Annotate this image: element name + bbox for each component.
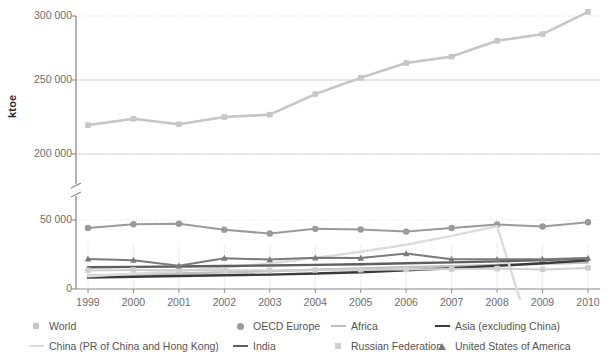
legend-line-icon bbox=[28, 345, 44, 348]
data-point-marker bbox=[358, 267, 364, 273]
data-point-marker bbox=[403, 228, 409, 234]
legend-marker-glyph bbox=[438, 343, 446, 350]
data-point-marker bbox=[267, 268, 273, 274]
data-point-marker bbox=[540, 31, 546, 37]
data-point-marker bbox=[449, 266, 455, 272]
x-axis-tick-label: 2005 bbox=[349, 296, 372, 308]
data-point-marker bbox=[131, 267, 137, 273]
legend-item[interactable]: United States of America bbox=[434, 340, 571, 352]
legend-item-label: Russian Federation bbox=[351, 340, 442, 352]
x-axis-tick-label: 2001 bbox=[167, 296, 190, 308]
series-line-oecd-europe bbox=[88, 222, 588, 233]
legend-line-icon bbox=[434, 325, 450, 328]
data-point-marker bbox=[85, 225, 91, 231]
legend-marker-glyph bbox=[331, 325, 346, 328]
legend-circle-icon bbox=[232, 323, 248, 330]
x-axis-tick-label: 2003 bbox=[258, 296, 281, 308]
chart-container: ktoe 300 000250 000200 00050 0000 199920… bbox=[0, 0, 615, 361]
data-point-marker bbox=[540, 267, 546, 273]
x-axis-tick-label: 2002 bbox=[213, 296, 236, 308]
x-axis-tick-label: 2008 bbox=[485, 296, 508, 308]
legend-square-icon bbox=[28, 323, 44, 329]
data-point-marker bbox=[222, 114, 228, 120]
data-point-marker bbox=[85, 268, 91, 274]
data-point-marker bbox=[312, 226, 318, 232]
data-point-marker bbox=[449, 54, 455, 60]
legend-item[interactable]: Russian Federation bbox=[330, 340, 442, 352]
x-axis-tick-labels: 1999200020012002200320042005200620072008… bbox=[0, 292, 615, 310]
legend-item-label: OECD Europe bbox=[253, 320, 320, 332]
x-axis-tick-label: 2000 bbox=[122, 296, 145, 308]
data-point-marker bbox=[267, 230, 273, 236]
legend-item-label: Asia (excluding China) bbox=[455, 320, 560, 332]
data-point-marker bbox=[358, 75, 364, 81]
plot-area bbox=[0, 0, 615, 300]
data-point-marker bbox=[85, 122, 91, 128]
legend-item-label: China (PR of China and Hong Kong) bbox=[49, 340, 219, 352]
data-point-marker bbox=[403, 60, 409, 66]
legend-item[interactable]: Asia (excluding China) bbox=[434, 320, 560, 332]
legend-marker-glyph bbox=[233, 345, 248, 348]
data-point-marker bbox=[494, 266, 500, 272]
legend-marker-glyph bbox=[237, 323, 244, 330]
legend-item-label: Africa bbox=[351, 320, 378, 332]
x-axis-tick-label: 2010 bbox=[576, 296, 599, 308]
data-point-marker bbox=[312, 267, 318, 273]
data-point-marker bbox=[222, 267, 228, 273]
x-axis-tick-label: 2007 bbox=[440, 296, 463, 308]
data-point-marker bbox=[130, 221, 136, 227]
data-point-marker bbox=[448, 225, 454, 231]
legend-triangle-icon bbox=[434, 343, 450, 350]
legend-line-icon bbox=[330, 325, 346, 328]
data-point-marker bbox=[585, 219, 591, 225]
data-point-marker bbox=[176, 121, 182, 127]
legend-marker-glyph bbox=[335, 343, 341, 349]
legend-marker-glyph bbox=[33, 323, 39, 329]
legend-item[interactable]: India bbox=[232, 340, 276, 352]
data-point-marker bbox=[131, 116, 137, 122]
legend-item[interactable]: China (PR of China and Hong Kong) bbox=[28, 340, 219, 352]
legend-marker-glyph bbox=[435, 325, 450, 328]
chart-legend: WorldOECD EuropeAfricaAsia (excluding Ch… bbox=[0, 316, 615, 361]
legend-item[interactable]: World bbox=[28, 320, 76, 332]
legend-item[interactable]: OECD Europe bbox=[232, 320, 320, 332]
legend-item-label: United States of America bbox=[455, 340, 571, 352]
data-point-marker bbox=[176, 221, 182, 227]
series-line-world bbox=[88, 12, 588, 125]
legend-square-icon bbox=[330, 343, 346, 349]
x-axis-tick-label: 2004 bbox=[304, 296, 327, 308]
legend-marker-glyph bbox=[29, 345, 44, 348]
data-point-marker bbox=[585, 9, 591, 15]
legend-item-label: India bbox=[253, 340, 276, 352]
data-point-marker bbox=[539, 223, 545, 229]
legend-line-icon bbox=[232, 345, 248, 348]
x-axis-tick-label: 1999 bbox=[76, 296, 99, 308]
x-axis-tick-label: 2006 bbox=[394, 296, 417, 308]
legend-item-label: World bbox=[49, 320, 76, 332]
data-point-marker bbox=[221, 227, 227, 233]
data-point-marker bbox=[312, 91, 318, 97]
data-point-marker bbox=[494, 38, 500, 44]
data-point-marker bbox=[267, 112, 273, 118]
data-point-marker bbox=[585, 265, 591, 271]
data-point-marker bbox=[403, 267, 409, 273]
x-axis-tick-label: 2009 bbox=[531, 296, 554, 308]
legend-item[interactable]: Africa bbox=[330, 320, 378, 332]
data-point-marker bbox=[358, 226, 364, 232]
